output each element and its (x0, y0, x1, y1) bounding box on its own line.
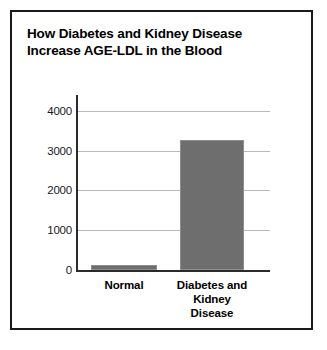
chart-title-line-1: How Diabetes and Kidney Disease (27, 25, 297, 42)
ytick-label-4000: 4000 (47, 105, 72, 117)
xtick-label-normal: Normal (84, 278, 164, 292)
gridline-0: 0 (78, 270, 270, 271)
ytick-label-2000: 2000 (47, 184, 72, 196)
ytick-label-0: 0 (66, 264, 72, 276)
ytick-label-3000: 3000 (47, 145, 72, 157)
bar-normal (91, 265, 157, 270)
chart-title: How Diabetes and Kidney Disease Increase… (27, 25, 297, 59)
plot-area: 4000 3000 2000 1000 0 Normal Diabetes an… (76, 95, 270, 270)
xtick-label-dkd-line-3: Disease (168, 306, 256, 320)
y-axis-line (76, 95, 78, 270)
chart-title-line-2: Increase AGE-LDL in the Blood (27, 42, 297, 59)
xtick-label-dkd-line-2: Kidney (168, 292, 256, 306)
xtick-label-dkd-line-1: Diabetes and (168, 278, 256, 292)
gridline-4000: 4000 (78, 111, 270, 112)
chart-figure: How Diabetes and Kidney Disease Increase… (10, 10, 313, 330)
bar-diabetes-and-kidney-disease (180, 140, 244, 270)
ytick-label-1000: 1000 (47, 224, 72, 236)
xtick-label-diabetes-and-kidney-disease: Diabetes and Kidney Disease (168, 278, 256, 320)
xtick-label-normal-line-1: Normal (84, 278, 164, 292)
